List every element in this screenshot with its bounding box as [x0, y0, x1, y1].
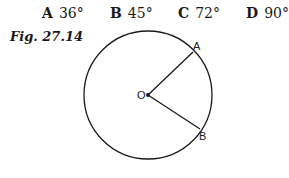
center-point — [146, 93, 150, 97]
radius-ob — [148, 95, 200, 129]
label-o: O — [137, 89, 146, 101]
label-b: B — [199, 130, 206, 142]
radius-oa — [148, 52, 193, 95]
circle-diagram: O A B — [0, 0, 289, 178]
label-a: A — [193, 40, 201, 52]
